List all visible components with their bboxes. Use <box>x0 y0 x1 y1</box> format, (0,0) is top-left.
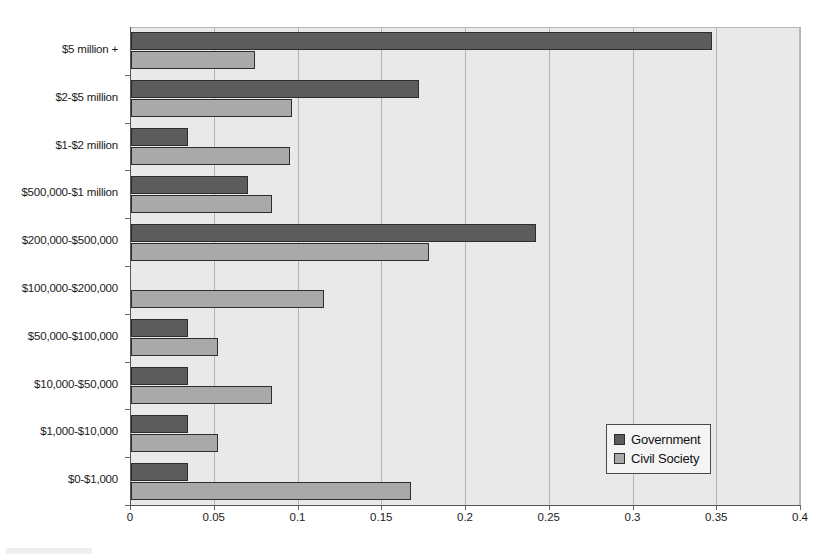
legend-item-government: Government <box>614 430 701 449</box>
x-tick-mark <box>214 505 215 510</box>
x-tick-label: 0.4 <box>792 511 808 523</box>
gridline <box>549 27 550 505</box>
x-tick-mark <box>549 505 550 510</box>
x-tick-label: 0 <box>127 511 133 523</box>
bar-government <box>131 367 188 385</box>
legend-swatch-civil-society <box>614 453 625 464</box>
x-tick-label: 0.3 <box>625 511 641 523</box>
y-tick-mark <box>125 314 130 315</box>
bar-civil-society <box>131 386 272 404</box>
bar-government <box>131 319 188 337</box>
x-tick-label: 0.35 <box>705 511 727 523</box>
bar-civil-society <box>131 99 292 117</box>
bar-civil-society <box>131 338 218 356</box>
legend-swatch-government <box>614 434 625 445</box>
gridline <box>298 27 299 505</box>
y-tick-mark <box>125 75 130 76</box>
x-tick-label: 0.1 <box>290 511 306 523</box>
gridline <box>465 27 466 505</box>
legend-label-government: Government <box>631 432 701 447</box>
y-axis-line <box>130 27 131 505</box>
y-tick-mark <box>125 362 130 363</box>
x-tick-mark <box>800 505 801 510</box>
category-label: $50,000-$100,000 <box>0 330 118 342</box>
x-tick-label: 0.2 <box>457 511 473 523</box>
bar-civil-society <box>131 195 272 213</box>
y-tick-mark <box>125 457 130 458</box>
x-tick-mark <box>381 505 382 510</box>
category-label: $2-$5 million <box>0 91 118 103</box>
y-tick-mark <box>125 218 130 219</box>
category-label: $0-$1,000 <box>0 473 118 485</box>
bar-government <box>131 32 712 50</box>
category-label: $100,000-$200,000 <box>0 282 118 294</box>
category-label: $1-$2 million <box>0 139 118 151</box>
bar-chart: $5 million +$2-$5 million$1-$2 million$5… <box>0 0 831 559</box>
bar-government <box>131 80 419 98</box>
category-label: $1,000-$10,000 <box>0 425 118 437</box>
category-label: $5 million + <box>0 43 118 55</box>
bar-civil-society <box>131 243 429 261</box>
bar-government <box>131 176 248 194</box>
x-tick-mark <box>716 505 717 510</box>
y-tick-mark <box>125 266 130 267</box>
x-tick-label: 0.05 <box>203 511 225 523</box>
x-tick-mark <box>465 505 466 510</box>
x-tick-mark <box>130 505 131 510</box>
y-tick-mark <box>125 123 130 124</box>
gridline <box>381 27 382 505</box>
bar-government <box>131 128 188 146</box>
legend-label-civil-society: Civil Society <box>631 451 699 466</box>
gridline <box>800 27 801 505</box>
gridline <box>716 27 717 505</box>
x-tick-mark <box>298 505 299 510</box>
scan-artifact <box>6 548 92 554</box>
bar-civil-society <box>131 290 324 308</box>
category-label: $200,000-$500,000 <box>0 234 118 246</box>
y-tick-mark <box>125 409 130 410</box>
bar-government <box>131 463 188 481</box>
x-tick-label: 0.25 <box>538 511 560 523</box>
bar-government <box>131 224 536 242</box>
category-label: $10,000-$50,000 <box>0 378 118 390</box>
bar-civil-society <box>131 51 255 69</box>
bar-civil-society <box>131 482 411 500</box>
y-tick-mark <box>125 505 130 506</box>
y-tick-mark <box>125 170 130 171</box>
legend-item-civil-society: Civil Society <box>614 449 701 468</box>
category-label: $500,000-$1 million <box>0 186 118 198</box>
chart-legend: Government Civil Society <box>606 424 711 474</box>
bar-civil-society <box>131 434 218 452</box>
x-tick-mark <box>633 505 634 510</box>
x-tick-label: 0.15 <box>370 511 392 523</box>
bar-government <box>131 415 188 433</box>
bar-civil-society <box>131 147 290 165</box>
